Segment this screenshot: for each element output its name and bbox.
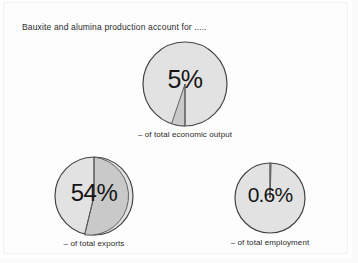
pie-value-employment: 0.6% [234,184,306,205]
pie-chart-employment: 0.6% – of total employment [234,162,306,234]
pie-value-economic-output: 5% [142,67,228,92]
pie-chart-economic-output: 5% – of total economic output [142,41,228,127]
pie-caption-economic-output: – of total economic output [138,130,232,139]
page-edge-right [352,0,358,263]
pie-caption-exports: – of total exports [64,239,125,248]
page-edge-bottom [0,257,358,263]
figure-headline: Bauxite and alumina production account f… [22,22,207,32]
pie-graphic-employment: 0.6% [234,162,306,234]
pie-caption-employment: – of total employment [231,238,310,247]
pie-graphic-economic-output: 5% [142,41,228,127]
pie-graphic-exports: 54% [54,156,134,236]
infographic-figure: Bauxite and alumina production account f… [0,0,358,263]
pie-value-exports: 54% [54,181,134,205]
pie-chart-exports: 54% – of total exports [54,156,134,236]
